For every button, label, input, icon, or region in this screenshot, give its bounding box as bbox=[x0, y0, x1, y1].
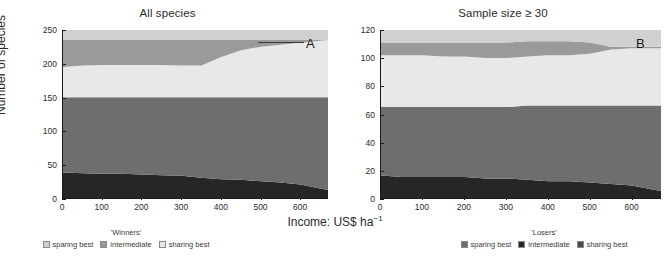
area-winners-sparing-best bbox=[63, 30, 328, 40]
legend-item-label: sharing best bbox=[587, 240, 628, 249]
legend-item-label: sparing best bbox=[471, 240, 512, 249]
x-tick-mark bbox=[632, 196, 633, 200]
legend-item[interactable]: intermediate bbox=[100, 240, 151, 249]
y-tick-label: 60 bbox=[341, 110, 375, 120]
x-tick-label: 300 bbox=[161, 202, 201, 212]
x-tick-mark bbox=[261, 196, 262, 200]
panel-b-letter: B bbox=[636, 36, 645, 51]
y-tick-mark bbox=[62, 131, 66, 132]
x-tick-label: 200 bbox=[444, 202, 484, 212]
y-tick-label: 200 bbox=[23, 59, 57, 69]
x-tick-label: 200 bbox=[121, 202, 161, 212]
x-axis-title: Income: US$ ha−1 bbox=[0, 214, 670, 229]
y-tick-mark bbox=[62, 98, 66, 99]
legend-item-label: sparing best bbox=[53, 240, 94, 249]
x-axis-title-exponent: −1 bbox=[373, 214, 382, 223]
legend-losers-title: 'Losers' bbox=[430, 228, 658, 237]
legend-winners: 'Winners' sparing bestintermediatesharin… bbox=[12, 228, 240, 249]
y-tick-label: 100 bbox=[341, 53, 375, 63]
y-tick-label: 120 bbox=[341, 25, 375, 35]
legend-item[interactable]: sparing best bbox=[461, 240, 512, 249]
panel-b-plot-area bbox=[380, 30, 661, 199]
y-axis-title: Number of species bbox=[0, 15, 8, 115]
x-tick-label: 100 bbox=[82, 202, 122, 212]
panel-a-letter: A bbox=[306, 36, 315, 51]
x-tick-label: 400 bbox=[201, 202, 241, 212]
x-axis-title-text: Income: US$ ha bbox=[287, 215, 373, 229]
x-tick-label: 500 bbox=[570, 202, 610, 212]
x-tick-mark bbox=[506, 196, 507, 200]
panel-b-stacked-areas bbox=[381, 30, 661, 198]
legend-swatch-icon bbox=[518, 241, 525, 248]
figure-root: All species A Number of species 'Winners… bbox=[0, 0, 670, 266]
legend-losers-items: sparing bestintermediatesharing best bbox=[430, 240, 658, 249]
x-tick-label: 100 bbox=[402, 202, 442, 212]
y-tick-mark bbox=[380, 171, 384, 172]
panel-a-title: All species bbox=[0, 7, 335, 19]
legend-losers: 'Losers' sparing bestintermediatesharing… bbox=[430, 228, 658, 249]
x-tick-mark bbox=[464, 196, 465, 200]
legend-swatch-icon bbox=[43, 241, 50, 248]
panel-a-stacked-areas bbox=[63, 30, 328, 198]
x-tick-mark bbox=[181, 196, 182, 200]
legend-item-label: intermediate bbox=[110, 240, 151, 249]
y-tick-mark bbox=[62, 165, 66, 166]
legend-swatch-icon bbox=[159, 241, 166, 248]
legend-swatch-icon bbox=[577, 241, 584, 248]
y-tick-label: 40 bbox=[341, 138, 375, 148]
legend-winners-items: sparing bestintermediatesharing best bbox=[12, 240, 240, 249]
x-tick-mark bbox=[548, 196, 549, 200]
panel-b-title: Sample size ≥ 30 bbox=[353, 7, 653, 19]
legend-swatch-icon bbox=[461, 241, 468, 248]
legend-item[interactable]: intermediate bbox=[518, 240, 569, 249]
y-tick-mark bbox=[62, 30, 66, 31]
x-tick-mark bbox=[300, 196, 301, 200]
y-tick-label: 100 bbox=[23, 126, 57, 136]
y-tick-mark bbox=[380, 115, 384, 116]
y-tick-mark bbox=[380, 30, 384, 31]
legend-winners-title: 'Winners' bbox=[12, 228, 240, 237]
x-tick-label: 600 bbox=[280, 202, 320, 212]
y-tick-mark bbox=[62, 64, 66, 65]
x-tick-label: 300 bbox=[486, 202, 526, 212]
x-tick-label: 600 bbox=[612, 202, 652, 212]
y-tick-label: 80 bbox=[341, 81, 375, 91]
y-tick-label: 250 bbox=[23, 25, 57, 35]
x-tick-mark bbox=[221, 196, 222, 200]
x-tick-mark bbox=[380, 196, 381, 200]
panel-a-leader-line bbox=[258, 42, 304, 43]
y-tick-mark bbox=[380, 143, 384, 144]
x-tick-label: 400 bbox=[528, 202, 568, 212]
legend-item[interactable]: sharing best bbox=[159, 240, 210, 249]
legend-item[interactable]: sharing best bbox=[577, 240, 628, 249]
legend-swatch-icon bbox=[100, 241, 107, 248]
legend-item-label: intermediate bbox=[528, 240, 569, 249]
legend-item[interactable]: sparing best bbox=[43, 240, 94, 249]
y-tick-label: 20 bbox=[341, 166, 375, 176]
x-tick-label: 0 bbox=[360, 202, 400, 212]
x-tick-mark bbox=[102, 196, 103, 200]
x-tick-mark bbox=[422, 196, 423, 200]
x-tick-mark bbox=[590, 196, 591, 200]
x-tick-label: 0 bbox=[42, 202, 82, 212]
panel-a-plot-area bbox=[62, 30, 328, 199]
legend-item-label: sharing best bbox=[169, 240, 210, 249]
x-tick-label: 500 bbox=[241, 202, 281, 212]
y-tick-label: 50 bbox=[23, 160, 57, 170]
y-tick-mark bbox=[380, 58, 384, 59]
x-tick-mark bbox=[62, 196, 63, 200]
y-tick-label: 150 bbox=[23, 93, 57, 103]
x-tick-mark bbox=[141, 196, 142, 200]
y-tick-mark bbox=[380, 86, 384, 87]
